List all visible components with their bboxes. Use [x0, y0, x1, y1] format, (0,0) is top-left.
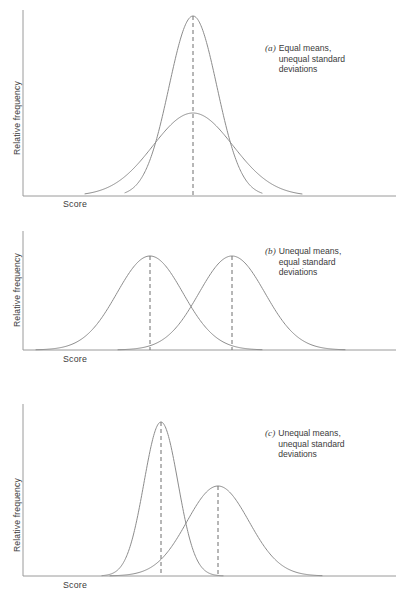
- plot-area-b: [0, 205, 411, 400]
- y-axis-label-b: Relative frequency: [12, 253, 22, 327]
- caption-line-b-1: Unequal means,: [279, 246, 342, 257]
- panel-b: Relative frequencyScore(b)Unequal means,…: [0, 205, 411, 400]
- caption-line-b-3: deviations: [279, 267, 342, 278]
- wide-short-curve-c: [110, 486, 322, 576]
- panel-caption-c: (c)Unequal means,unequal standarddeviati…: [265, 428, 345, 460]
- panel-caption-text-a: Equal means,unequal standarddeviations: [279, 43, 345, 75]
- statistics-figure: Relative frequencyScore(a)Equal means,un…: [0, 0, 411, 604]
- panel-tag-a: (a): [265, 43, 276, 53]
- caption-line-a-2: unequal standard: [279, 54, 345, 65]
- panel-c: Relative frequencyScore(c)Unequal means,…: [0, 400, 411, 604]
- wide-curve-a: [85, 113, 302, 194]
- plot-area-a: [0, 0, 411, 205]
- caption-line-c-3: deviations: [278, 449, 344, 460]
- plot-area-c: [0, 400, 411, 604]
- caption-line-c-2: unequal standard: [278, 439, 344, 450]
- panel-tag-b: (b): [265, 246, 276, 256]
- panel-tag-c: (c): [265, 428, 275, 438]
- left-curve-b: [36, 256, 262, 350]
- x-axis-label-c: Score: [63, 580, 87, 590]
- panel-caption-text-c: Unequal means,unequal standarddeviations: [278, 428, 344, 460]
- caption-line-b-2: equal standard: [279, 257, 342, 268]
- panel-caption-a: (a)Equal means,unequal standarddeviation…: [265, 43, 345, 75]
- caption-line-a-3: deviations: [279, 64, 345, 75]
- panel-a: Relative frequencyScore(a)Equal means,un…: [0, 0, 411, 205]
- y-axis-label-c: Relative frequency: [12, 478, 22, 552]
- y-axis-label-a: Relative frequency: [12, 81, 22, 155]
- x-axis-label-b: Score: [63, 354, 87, 364]
- caption-line-c-1: Unequal means,: [278, 428, 344, 439]
- caption-line-a-1: Equal means,: [279, 43, 345, 54]
- narrow-tall-curve-c: [102, 422, 223, 576]
- panel-caption-text-b: Unequal means,equal standarddeviations: [279, 246, 342, 278]
- panel-caption-b: (b)Unequal means,equal standarddeviation…: [265, 246, 341, 278]
